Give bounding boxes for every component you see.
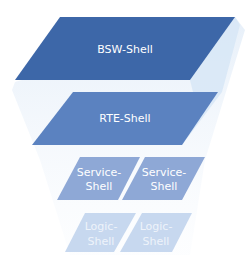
service-shell-left-label-2: Shell: [86, 180, 113, 193]
service-shell-left-label-1: Service-: [77, 166, 122, 179]
logic-shell-left-label-1: Logic-: [85, 220, 118, 233]
logic-shell-right-label-2: Shell: [143, 235, 170, 248]
shell-diagram: BSW-Shell RTE-Shell Service- Shell Servi…: [0, 0, 247, 265]
logic-shell-left-label-2: Shell: [88, 235, 115, 248]
logic-shell-right-label-1: Logic-: [140, 220, 173, 233]
service-shell-right-label-1: Service-: [142, 166, 187, 179]
bsw-shell-label: BSW-Shell: [97, 43, 153, 56]
service-shell-right-label-2: Shell: [151, 180, 178, 193]
rte-shell-label: RTE-Shell: [99, 112, 150, 125]
